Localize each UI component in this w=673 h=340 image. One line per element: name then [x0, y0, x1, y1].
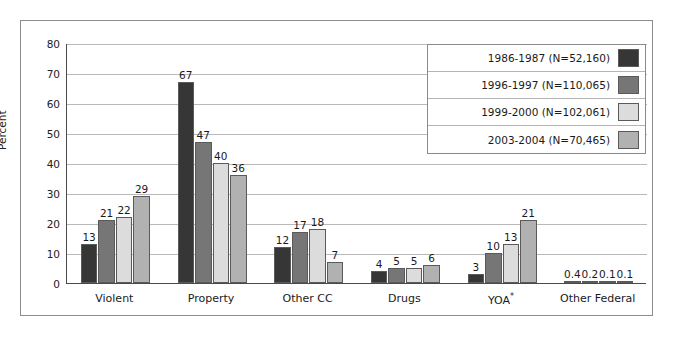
legend-color-swatch: [618, 131, 639, 149]
y-tick-label: 10: [36, 249, 60, 260]
bar-value-label: 18: [301, 217, 334, 228]
bar: [371, 271, 388, 283]
legend-label: 2003-2004 (N=70,465): [488, 134, 610, 146]
y-tick-label: 80: [36, 39, 60, 50]
category-label-text: Other CC: [283, 292, 333, 305]
chart-legend: 1986-1987 (N=52,160)1996-1997 (N=110,065…: [427, 44, 646, 154]
y-tick-label: 70: [36, 69, 60, 80]
legend-color-swatch: [618, 103, 639, 121]
bar: [274, 247, 291, 283]
bar-value-label: 6: [415, 253, 448, 264]
y-tick-label: 20: [36, 219, 60, 230]
bar: [468, 274, 485, 283]
bar: [292, 232, 309, 283]
bar-value-label: 36: [222, 163, 255, 174]
bar: [213, 163, 230, 283]
bar-value-label: 40: [205, 151, 238, 162]
bar: [423, 265, 440, 283]
bar: [327, 262, 344, 283]
category-label-text: Violent: [95, 292, 133, 305]
bar-value-label: 7: [319, 250, 352, 261]
category-label-text: Drugs: [388, 292, 421, 305]
legend-label: 1996-1997 (N=110,065): [481, 79, 610, 91]
category-label-drugs: Drugs: [356, 293, 453, 304]
footnote-asterisk: *: [510, 292, 514, 301]
y-axis-title: Percent: [0, 110, 8, 150]
bar-value-label: 21: [512, 208, 545, 219]
category-label-other-federal: Other Federal: [549, 293, 646, 304]
category-label-text: Other Federal: [560, 292, 635, 305]
bar: [503, 244, 520, 283]
bar: [116, 217, 133, 283]
category-label-yoa: YOA*: [453, 293, 550, 306]
legend-row: 1996-1997 (N=110,065): [428, 72, 645, 99]
bar: [582, 281, 599, 283]
bar: [195, 142, 212, 283]
legend-row: 1986-1987 (N=52,160): [428, 45, 645, 72]
bar-value-label: 0.1: [609, 269, 642, 280]
legend-row: 2003-2004 (N=70,465): [428, 126, 645, 153]
bar: [406, 268, 423, 283]
bar-value-label: 29: [125, 184, 158, 195]
y-tick-label: 60: [36, 99, 60, 110]
bar: [81, 244, 98, 283]
category-label-text: YOA: [488, 294, 510, 307]
bar: [178, 82, 195, 283]
category-label-violent: Violent: [66, 293, 163, 304]
legend-label: 1999-2000 (N=102,061): [481, 106, 610, 118]
bar: [388, 268, 405, 283]
legend-color-swatch: [618, 49, 639, 67]
category-label-other-cc: Other CC: [259, 293, 356, 304]
bar: [485, 253, 502, 283]
bar: [520, 220, 537, 283]
bar-value-label: 67: [170, 70, 203, 81]
y-tick-label: 30: [36, 189, 60, 200]
y-tick-label: 0: [36, 279, 60, 290]
bar: [564, 281, 581, 283]
bar: [98, 220, 115, 283]
y-tick-label: 40: [36, 159, 60, 170]
figure-canvas: Percent 13212229674740361217187455631013…: [0, 0, 673, 340]
legend-row: 1999-2000 (N=102,061): [428, 99, 645, 126]
category-label-property: Property: [163, 293, 260, 304]
gridline-10: [67, 254, 647, 255]
bar: [230, 175, 247, 283]
category-label-text: Property: [188, 292, 235, 305]
bar: [617, 281, 634, 283]
bar: [599, 281, 616, 283]
gridline-20: [67, 224, 647, 225]
y-tick-label: 50: [36, 129, 60, 140]
legend-label: 1986-1987 (N=52,160): [488, 52, 610, 64]
gridline-40: [67, 164, 647, 165]
legend-color-swatch: [618, 76, 639, 94]
bar-value-label: 47: [187, 130, 220, 141]
bar: [133, 196, 150, 283]
